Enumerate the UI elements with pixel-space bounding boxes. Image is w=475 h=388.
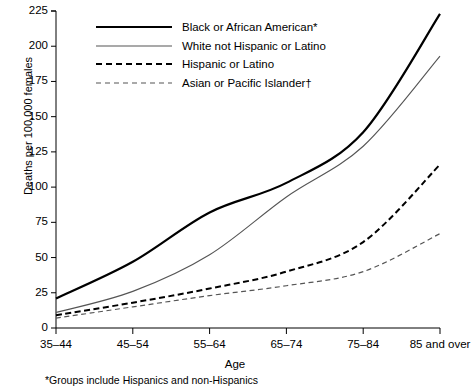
y-tick-label: 200 — [14, 40, 48, 51]
y-tick-label: 25 — [14, 287, 48, 298]
legend-label: Hispanic or Latino — [182, 58, 274, 70]
y-tick-label: 175 — [14, 75, 48, 86]
legend-label: White not Hispanic or Latino — [182, 40, 326, 52]
series-line-1 — [56, 56, 440, 312]
legend-label: Black or African American* — [182, 21, 318, 33]
legend-item: White not Hispanic or Latino — [96, 37, 326, 56]
legend-line-swatch — [96, 21, 172, 33]
y-tick-label: 75 — [14, 216, 48, 227]
y-tick-label: 150 — [14, 111, 48, 122]
legend-line-swatch — [96, 58, 172, 70]
series-line-2 — [56, 165, 440, 316]
y-tick-label: 100 — [14, 181, 48, 192]
y-tick-label: 225 — [14, 5, 48, 16]
x-tick-label: 85 and over — [395, 338, 475, 350]
legend-item: Asian or Pacific Islander† — [96, 74, 326, 93]
x-axis-label: Age — [0, 358, 470, 370]
legend-item: Hispanic or Latino — [96, 55, 326, 74]
chart-footnote: *Groups include Hispanics and non-Hispan… — [45, 374, 258, 386]
legend-label: Asian or Pacific Islander† — [182, 77, 312, 89]
chart-legend: Black or African American*White not Hisp… — [96, 18, 326, 92]
legend-line-swatch — [96, 40, 172, 52]
legend-line-swatch — [96, 77, 172, 89]
y-tick-label: 0 — [14, 322, 48, 333]
y-tick-label: 50 — [14, 252, 48, 263]
legend-item: Black or African American* — [96, 18, 326, 37]
y-tick-label: 125 — [14, 146, 48, 157]
